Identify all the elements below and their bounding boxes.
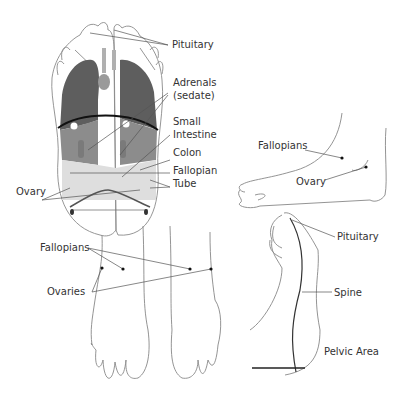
label-small-intestine-2: Intestine — [173, 129, 217, 141]
label-small-intestine-1: Small — [173, 116, 201, 128]
label-fallopian: Fallopian — [173, 165, 217, 177]
sole-view-illustration — [0, 0, 402, 398]
label-pituitary-sole: Pituitary — [172, 39, 214, 51]
label-ovaries-front: Ovaries — [47, 286, 85, 298]
label-tube: Tube — [173, 178, 196, 190]
label-ovary-side: Ovary — [296, 176, 326, 188]
label-spine: Spine — [334, 287, 362, 299]
label-fallopians-front: Fallopians — [40, 242, 89, 254]
label-colon: Colon — [173, 147, 201, 159]
label-pituitary-medial: Pituitary — [337, 231, 379, 243]
label-fallopians-side: Fallopians — [258, 140, 307, 152]
label-ovary-sole: Ovary — [16, 186, 46, 198]
label-adrenals-sedate: (sedate) — [173, 90, 215, 102]
label-pelvic-area: Pelvic Area — [324, 346, 379, 358]
label-adrenals: Adrenals — [173, 77, 217, 89]
